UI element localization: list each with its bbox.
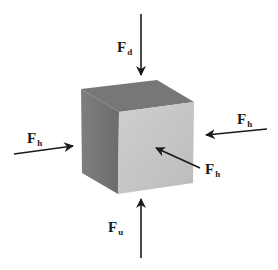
force-label-left: Fh [27,131,42,148]
force-arrow-left [14,146,73,154]
force-label-up: Fu [108,220,123,237]
force-diagram: Fd Fh Fh Fh Fu [0,0,278,270]
force-label-front: Fh [205,162,220,179]
force-label-down: Fd [117,40,132,57]
force-arrow-right [206,129,267,135]
force-label-right: Fh [237,112,252,129]
